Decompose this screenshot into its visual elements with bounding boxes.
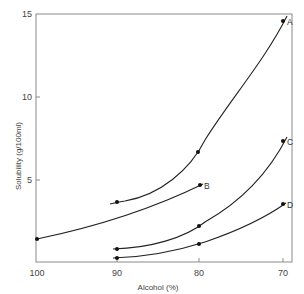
point-b-100: [35, 237, 39, 241]
x-axis: 100 90 80 70 Alcohol (%): [29, 258, 288, 292]
point-a-70: [281, 19, 285, 23]
point-c-80: [197, 224, 201, 228]
y-tick-10: 10: [22, 92, 32, 102]
point-b-80: [198, 183, 202, 187]
series-label-c: C: [287, 137, 293, 147]
series-label-a: A: [287, 17, 293, 27]
data-points: [35, 19, 285, 260]
point-d-80: [197, 242, 201, 246]
x-tick-90: 90: [112, 268, 122, 278]
series-label-b: B: [204, 181, 210, 191]
point-a-80: [196, 150, 200, 154]
series-label-d: D: [287, 200, 293, 210]
x-tick-100: 100: [29, 268, 44, 278]
curve-b: [37, 184, 203, 239]
point-c-70: [281, 139, 285, 143]
point-a-90: [115, 200, 119, 204]
x-tick-70: 70: [278, 268, 288, 278]
curve-a: [110, 16, 287, 204]
point-d-90: [115, 256, 119, 260]
solubility-chart: 5 10 15 Solubility (g/100ml) 100 90 80 7…: [0, 0, 304, 294]
plot-frame: [36, 14, 292, 262]
x-tick-80: 80: [194, 268, 204, 278]
point-d-70: [281, 202, 285, 206]
y-tick-5: 5: [27, 175, 32, 185]
y-axis-title: Solubility (g/100ml): [14, 122, 23, 190]
point-c-90: [115, 247, 119, 251]
y-tick-15: 15: [22, 9, 32, 19]
curve-c: [113, 137, 287, 249]
x-axis-title: Alcohol (%): [138, 283, 179, 292]
